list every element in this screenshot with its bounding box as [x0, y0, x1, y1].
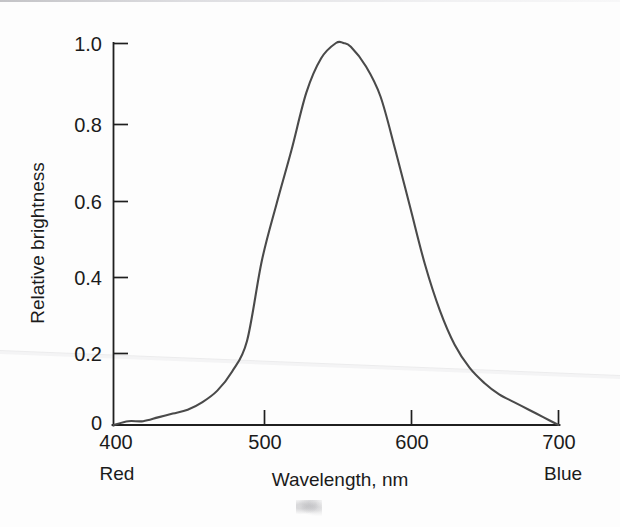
- brightness-curve: [114, 42, 559, 425]
- x-tick-label-600: 600: [377, 432, 447, 452]
- x-tick-label-700: 700: [524, 432, 594, 452]
- y-tick-label-0: 0: [56, 413, 102, 433]
- y-tick-label-0-8: 0.8: [56, 115, 102, 135]
- y-tick-label-0-4: 0.4: [56, 268, 102, 288]
- x-tick-label-400: 400: [81, 432, 151, 452]
- y-tick-label-0-6: 0.6: [56, 192, 102, 212]
- x-axis-title: Wavelength, nm: [200, 470, 480, 489]
- x-axis-right-end-label: Blue: [528, 464, 598, 483]
- x-axis-left-end-label: Red: [82, 464, 152, 483]
- chart-figure: 1.0 0.8 0.6 0.4 0.2 0 400 500 600 700 Re…: [0, 0, 620, 527]
- y-tick-marks: [114, 44, 129, 354]
- x-tick-label-500: 500: [230, 432, 300, 452]
- y-tick-label-0-2: 0.2: [56, 344, 102, 364]
- y-axis-title: Relative brightness: [27, 143, 49, 343]
- y-tick-label-1-0: 1.0: [56, 34, 102, 54]
- x-tick-marks: [265, 410, 559, 425]
